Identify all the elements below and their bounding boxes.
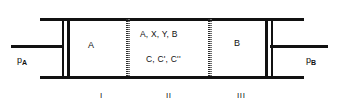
right-end-plate-outer-bar — [271, 18, 273, 79]
outlet-pipe — [270, 45, 328, 48]
outlet-pressure-subscript: B — [311, 59, 316, 66]
zone-2-species-line-2-label: C, C', C'' — [146, 55, 181, 64]
inlet-pressure-label: pA — [17, 56, 27, 66]
outlet-pressure-label: pB — [306, 56, 316, 66]
inlet-pressure-subscript: A — [22, 59, 27, 66]
left-end-plate-outer-bar — [62, 18, 64, 79]
zone-1-species-label: A — [88, 41, 94, 50]
left-end-plate-inner-bar — [67, 18, 70, 79]
membrane-divider-1 — [126, 19, 130, 77]
zone-numeral-1-label: I — [100, 92, 103, 100]
zone-3-species-label: B — [234, 39, 240, 48]
zone-numeral-2-label: II — [166, 92, 172, 100]
inlet-pipe — [11, 45, 64, 48]
zone-numeral-3-label: III — [237, 92, 245, 100]
right-end-plate-inner-bar — [265, 18, 268, 79]
membrane-divider-2 — [208, 19, 212, 77]
membrane-reactor-diagram: A A, X, Y, B C, C', C'' B pA pB I II III — [0, 0, 341, 111]
zone-2-species-line-1-label: A, X, Y, B — [140, 30, 178, 39]
